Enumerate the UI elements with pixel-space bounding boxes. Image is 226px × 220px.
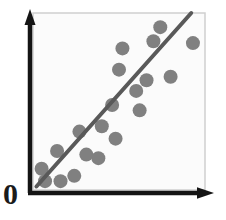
scatter-plot-figure: 0 (0, 0, 226, 220)
data-point (129, 84, 143, 98)
data-point (146, 34, 160, 48)
data-point (186, 36, 200, 50)
data-point (133, 103, 147, 117)
data-point (115, 41, 129, 55)
data-point (140, 73, 154, 87)
data-point (79, 148, 93, 162)
chart-canvas (0, 0, 226, 220)
data-point (112, 63, 126, 77)
data-point (153, 20, 167, 34)
data-point (164, 70, 178, 84)
data-point (67, 169, 81, 183)
data-point (109, 132, 123, 146)
data-point (91, 151, 105, 165)
origin-label: 0 (3, 179, 18, 209)
data-point (54, 174, 68, 188)
